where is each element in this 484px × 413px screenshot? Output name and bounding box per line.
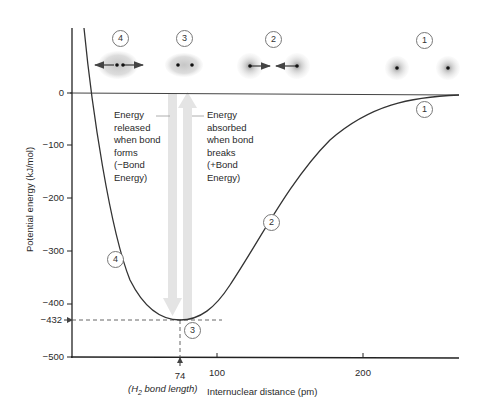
- energy-released-arrow: [163, 93, 182, 316]
- y-ticks: [67, 93, 72, 357]
- energy-released-note: Energy released when bond forms (−Bond E…: [114, 109, 160, 184]
- molecule-stage-1: [385, 56, 460, 80]
- molecule-stage-3: [165, 53, 203, 77]
- stage-marker-top-2: 2: [265, 31, 282, 48]
- stage-marker-curve-3: 3: [184, 322, 201, 339]
- stage-marker-top-3: 3: [176, 30, 193, 47]
- x-ticks: [217, 353, 363, 357]
- x-tick-74: 74: [160, 370, 200, 381]
- x-axis-label: Internuclear distance (pm): [207, 386, 317, 398]
- y-tick-minus-500: −500: [24, 351, 64, 362]
- x-tick-100: 100: [197, 367, 237, 378]
- y-tick-minus-432: −432: [22, 314, 62, 325]
- stage-marker-curve-1: 1: [416, 101, 433, 118]
- y-axis-label: Potential energy (kJ/mol): [24, 147, 35, 252]
- x-tick-200: 200: [343, 367, 383, 378]
- stage-marker-curve-4: 4: [107, 251, 124, 268]
- y-tick-0: 0: [24, 87, 64, 98]
- stage-marker-top-4: 4: [112, 30, 129, 47]
- y-tick-minus-400: −400: [24, 297, 64, 308]
- stage-marker-curve-2: 2: [263, 214, 280, 231]
- energy-absorbed-note: Energy absorbed when bond breaks (+Bond …: [207, 109, 253, 184]
- molecule-stage-2: [237, 53, 310, 79]
- zero-energy-line: [70, 93, 459, 95]
- potential-energy-chart: [0, 0, 484, 413]
- energy-absorbed-arrow: [178, 92, 197, 320]
- molecule-stage-4: [95, 51, 143, 79]
- bond-length-caption: (H2 bond length): [128, 383, 197, 399]
- stage-marker-top-1: 1: [416, 32, 433, 49]
- x-axis: [71, 357, 459, 358]
